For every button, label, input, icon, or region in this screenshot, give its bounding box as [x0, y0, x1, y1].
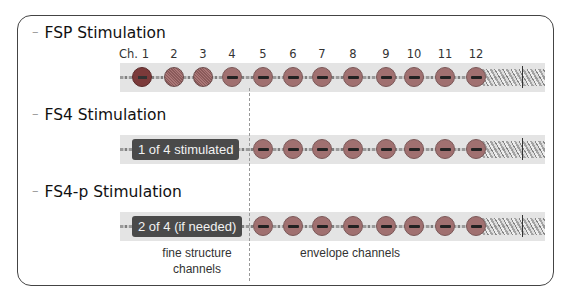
electrode-contact	[376, 139, 396, 159]
divider-dashed-line	[249, 88, 250, 281]
electrode-contact	[435, 67, 455, 87]
electrode-contact	[404, 216, 424, 236]
channel-number: 7	[318, 47, 325, 61]
fs4-badge: 1 of 4 stimulated	[132, 139, 239, 160]
electrode-array-fs4: 1 of 4 stimulated	[120, 135, 545, 164]
section-title-fs4p: –FS4-p Stimulation	[32, 183, 182, 201]
electrode-contact	[312, 67, 332, 87]
electrode-contact	[132, 67, 152, 87]
section-title-fsp: –FSP Stimulation	[32, 24, 166, 42]
electrode-contact	[376, 67, 396, 87]
electrode-array-fsp	[120, 63, 545, 92]
channel-number: 5	[259, 47, 266, 61]
fs4p-badge: 2 of 4 (if needed)	[132, 216, 242, 237]
electrode-contact	[312, 139, 332, 159]
electrode-array-fs4p: 2 of 4 (if needed)	[120, 212, 545, 241]
electrode-contact	[253, 139, 273, 159]
channel-number: 9	[382, 47, 389, 61]
envelope-label: envelope channels	[300, 245, 400, 261]
channel-number: 2	[170, 47, 177, 61]
electrode-contact	[164, 67, 184, 87]
channel-number: 10	[407, 47, 422, 61]
electrode-contact	[466, 216, 486, 236]
electrode-contact	[435, 139, 455, 159]
channel-number: 12	[469, 47, 484, 61]
electrode-contact	[466, 67, 486, 87]
electrode-contact	[435, 216, 455, 236]
electrode-contact	[253, 67, 273, 87]
electrode-contact	[466, 139, 486, 159]
electrode-contact	[283, 139, 303, 159]
channel-number: 3	[199, 47, 206, 61]
electrode-contact	[376, 216, 396, 236]
electrode-contact	[283, 67, 303, 87]
electrode-contact	[193, 67, 213, 87]
section-title-fs4: –FS4 Stimulation	[32, 106, 166, 124]
channel-number: 6	[289, 47, 296, 61]
electrode-contact	[343, 216, 363, 236]
electrode-contact	[253, 216, 273, 236]
electrode-contact	[343, 139, 363, 159]
electrode-contact	[343, 67, 363, 87]
electrode-contact	[404, 67, 424, 87]
channel-number: 8	[349, 47, 356, 61]
channel-number: Ch. 1	[119, 47, 149, 61]
electrode-contact	[312, 216, 332, 236]
electrode-contact	[283, 216, 303, 236]
channel-number: 11	[438, 47, 453, 61]
fine-structure-label: fine structure channels	[147, 245, 247, 277]
electrode-contact	[222, 67, 242, 87]
electrode-contact	[404, 139, 424, 159]
channel-number: 4	[228, 47, 235, 61]
